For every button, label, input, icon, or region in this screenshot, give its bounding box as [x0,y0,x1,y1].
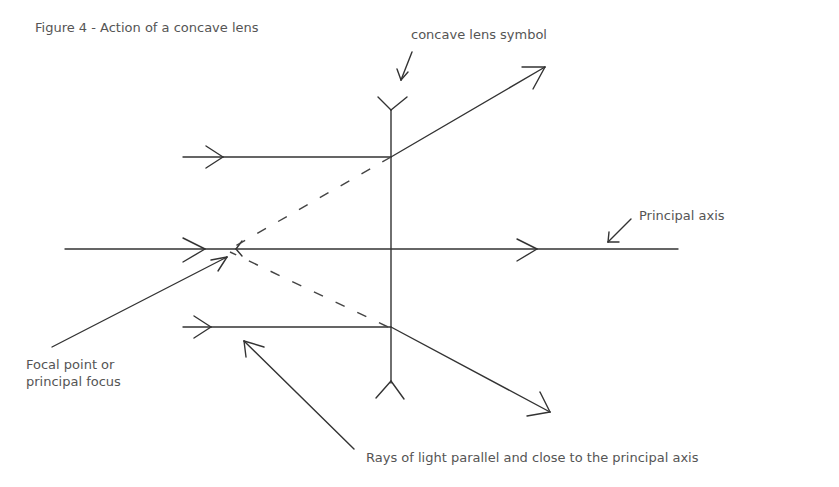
lens-pointer-arrow-icon [397,52,412,80]
concave-lens-symbol [376,97,407,399]
rays-pointer-arrow-icon [244,341,354,449]
concave-lens-diagram [0,0,839,487]
axis-pointer-arrow-icon [608,219,631,242]
upper-ray [183,67,545,249]
lower-ray [183,252,550,416]
principal-axis [65,238,678,262]
